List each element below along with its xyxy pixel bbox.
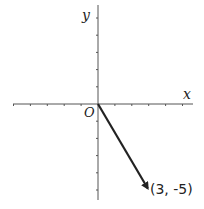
vector-arrow xyxy=(98,104,148,188)
origin-label: O xyxy=(84,105,95,120)
y-axis-label: y xyxy=(81,7,91,23)
vector-endpoint-label: (3, -5) xyxy=(150,181,193,197)
x-axis-label: x xyxy=(183,86,191,102)
coordinate-plane: y x O (3, -5) xyxy=(0,0,204,209)
